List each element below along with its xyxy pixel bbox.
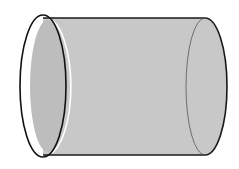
cylinder-figure xyxy=(0,0,239,169)
cylinder-diagram: Cylinder drawn horizontally with an open… xyxy=(0,0,239,169)
